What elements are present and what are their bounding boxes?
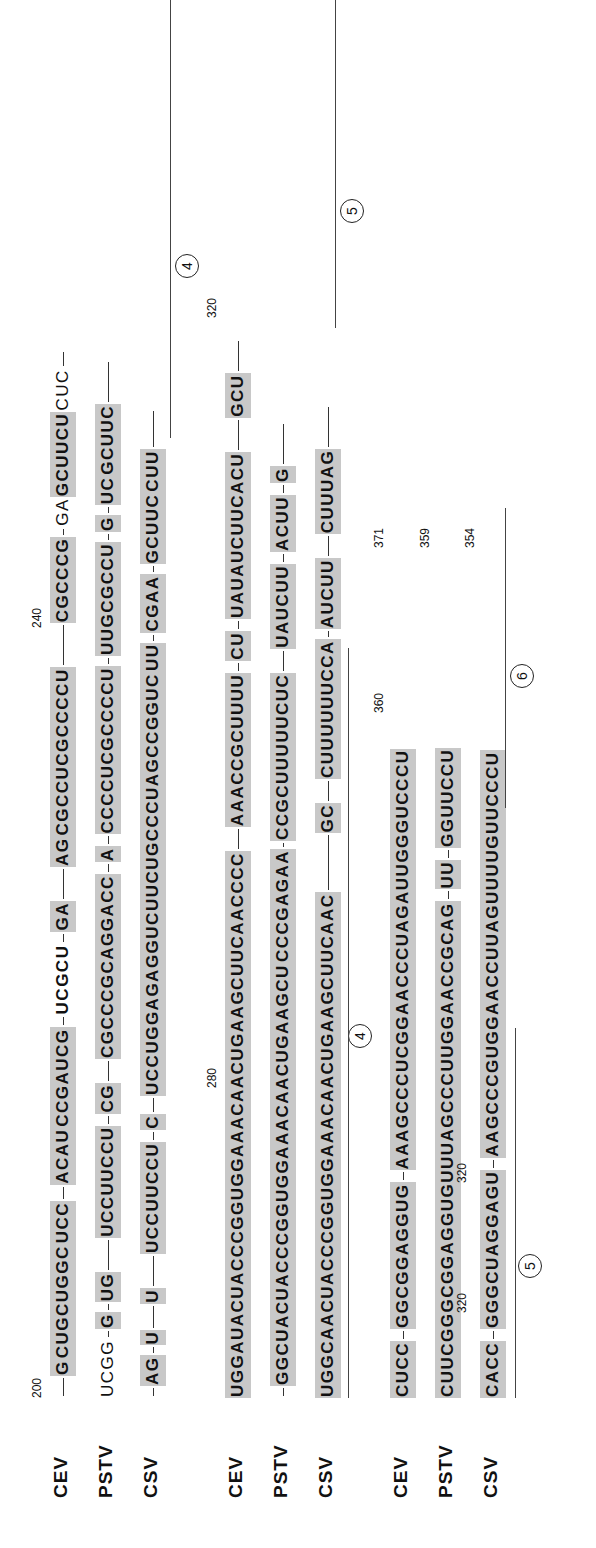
species-label-csv: CSV — [140, 1456, 162, 1498]
block2-csv-sequence: UGGCAACUACCCGGUGGAAACAACUGAAGCUUCAAC GC … — [313, 405, 343, 1398]
seq-segment: A — [95, 846, 121, 862]
gap — [153, 635, 154, 641]
seq-segment: AG — [140, 1356, 166, 1387]
seq-segment: UCGG — [95, 1339, 121, 1398]
region-line-5 — [335, 0, 336, 328]
gap — [283, 554, 284, 562]
gap — [283, 424, 284, 464]
seq-segment: GCUUC — [140, 493, 166, 565]
gap — [238, 621, 239, 629]
seq-segment: CGCCUCGCCCCU — [50, 667, 76, 836]
seq-segment: ACUU — [270, 495, 296, 552]
gap — [238, 663, 239, 671]
gap — [108, 1331, 109, 1337]
species-label-cev: CEV — [50, 1456, 72, 1498]
block-divider — [170, 0, 171, 438]
position-number: 280 — [205, 1068, 219, 1088]
species-label-csv: CSV — [480, 1456, 502, 1498]
gap — [403, 1172, 404, 1180]
gap — [238, 420, 239, 450]
seq-segment: GGCUACUACCCGGUGGAAACAACUGAAGCU — [270, 963, 296, 1386]
gap — [328, 781, 329, 801]
seq-segment: CCGCUUUUUCUC — [270, 673, 296, 841]
block1-cev-sequence: G CUGCUGGC UCC ACAU CCGAUCG UCGCU GA AG … — [48, 350, 78, 1398]
gap — [63, 529, 64, 535]
gap — [108, 534, 109, 540]
seq-segment: GA — [50, 497, 76, 527]
block2-pstv-sequence: GGCUACUACCCGGUGGAAACAACUGAAGCU CCCGAGAA … — [268, 422, 298, 1398]
seq-segment: G — [95, 1312, 121, 1329]
seq-segment: CG — [95, 1083, 121, 1114]
seq-segment: UCGCU — [50, 944, 76, 1016]
seq-segment: UU — [435, 860, 461, 890]
block1-pstv-sequence: UCGG G UG UCCUUCCU CG CGCCCGCAGGACC A CC… — [93, 360, 123, 1398]
seq-segment: GGGCUAGGAGU — [480, 1170, 506, 1329]
seq-segment: CCCCUCGCCCCU — [95, 666, 121, 834]
seq-segment: CUUCGGGCGGAGGUGUUUAGCCCUUGGAACCGCAG — [435, 902, 461, 1399]
seq-segment: U — [140, 1288, 166, 1304]
species-label-pstv: PSTV — [435, 1444, 457, 1498]
gap — [238, 829, 239, 849]
seq-segment: CU — [225, 631, 251, 661]
gap — [108, 1061, 109, 1081]
seq-segment: UGGAUACUACCCGGUGGAAACAACUGAAGCUUCAACCCC — [225, 851, 251, 1398]
seq-segment: GCUUCU — [50, 412, 76, 498]
gap — [283, 1388, 284, 1396]
gap — [283, 843, 284, 847]
region-marker-4: 4 — [348, 1024, 372, 1048]
region-line-4 — [348, 648, 349, 1398]
gap — [493, 1331, 494, 1339]
seq-segment: UCCUUCCU — [95, 1126, 121, 1238]
position-number: 360 — [372, 693, 386, 713]
seq-segment: CUU — [140, 449, 166, 492]
block3-cev-sequence: CUCC GGCGGAGGUG AAAGCCCUCGGAACCCUAGAUUGG… — [388, 749, 418, 1398]
region-marker-6: 6 — [510, 664, 534, 688]
gap — [328, 835, 329, 890]
gap — [108, 1304, 109, 1310]
region-line-5 — [515, 1028, 516, 1398]
seq-segment: AG — [50, 837, 76, 868]
gap — [63, 625, 64, 665]
gap — [108, 658, 109, 664]
seq-segment: UGGCAACUACCCGGUGGAAACAACUGAAGCUUCAAC — [315, 892, 341, 1398]
seq-segment: C — [140, 1114, 166, 1130]
seq-segment: UU — [140, 643, 166, 673]
position-number: 320 — [455, 1293, 469, 1313]
block3-csv-sequence: CACC GGGCUAGGAGU AAGCCCGUGGAACCUUAGUUUUG… — [478, 750, 508, 1398]
gap — [283, 651, 284, 671]
gap — [108, 1240, 109, 1270]
position-number: 240 — [30, 608, 44, 628]
gap — [63, 1378, 64, 1396]
gap — [448, 892, 449, 900]
gap — [108, 507, 109, 513]
region-marker-5: 5 — [340, 199, 364, 223]
seq-segment: GCU — [225, 373, 251, 417]
gap — [153, 1348, 154, 1354]
position-number: 354 — [463, 528, 477, 548]
seq-segment: UUGCGCCU — [95, 542, 121, 656]
species-label-csv: CSV — [315, 1456, 337, 1498]
seq-segment: UAUCUU — [270, 564, 296, 649]
gap — [153, 1306, 154, 1328]
seq-segment: CUUUUUUCCA — [315, 639, 341, 779]
seq-segment: UG — [95, 1272, 121, 1303]
species-label-cev: CEV — [390, 1456, 412, 1498]
seq-segment: CGCCCGCAGGACC — [95, 874, 121, 1059]
seq-segment: CUC — [50, 368, 76, 411]
position-number: 371 — [372, 528, 386, 548]
seq-segment: GGUUCCU — [435, 748, 461, 848]
gap — [328, 536, 329, 556]
gap — [153, 411, 154, 447]
gap — [108, 864, 109, 872]
position-number: 320 — [205, 298, 219, 318]
seq-segment: G — [95, 515, 121, 532]
seq-segment: G — [270, 466, 296, 483]
gap — [153, 1132, 154, 1140]
seq-segment: AAGCCCGUGGAACCUUAGUUUUGUUCCCU — [480, 750, 506, 1157]
seq-segment: CGCCCG — [50, 537, 76, 624]
gap — [153, 1256, 154, 1286]
seq-segment: UCCUUCCU — [140, 1142, 166, 1254]
seq-segment: CACC — [480, 1341, 506, 1398]
gap — [63, 869, 64, 899]
seq-segment: AAAGCCCUCGGAACCCUAGAUUGGGUCCCU — [390, 749, 416, 1171]
